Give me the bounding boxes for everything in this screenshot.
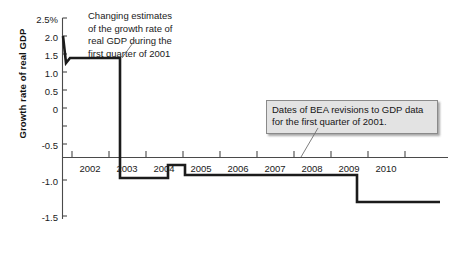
x-axis-ticks: [72, 151, 405, 158]
leader-line-bea-revisions: [301, 128, 318, 157]
leader-line-estimates: [122, 40, 135, 58]
plot-area: [0, 0, 454, 255]
gdp-revision-chart: Growth rate of real GDP 2.5% 2.0 1.5 1.0…: [0, 0, 454, 255]
gdp-revision-line: [63, 36, 440, 202]
